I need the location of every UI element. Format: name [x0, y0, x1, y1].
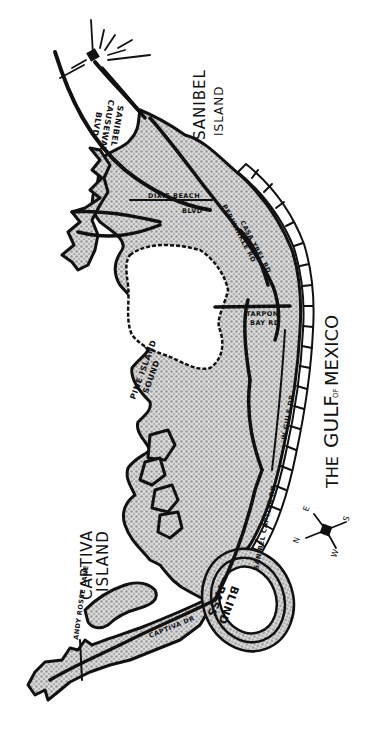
- label-dixie-blvd: BLVD: [182, 207, 203, 215]
- island-map: SANIBEL ISLAND SANIBEL CAUSEWAY BLVD DIX…: [0, 0, 383, 737]
- label-captiva-island: ISLAND: [94, 530, 112, 592]
- compass-w: W: [329, 548, 340, 559]
- label-gulf-mexico: MEXICO: [321, 315, 342, 386]
- label-dixie-beach: DIXIE BEACH: [148, 192, 200, 200]
- label-island: ISLAND: [212, 85, 226, 136]
- captiva-island-landmass: [28, 583, 210, 700]
- tarpon-bay-road-east: [215, 306, 290, 307]
- label-bay-rd: BAY RD: [250, 319, 280, 327]
- compass-e: E: [301, 505, 311, 513]
- compass-n: N: [291, 536, 302, 545]
- label-gulf-gulf: GULF: [319, 395, 343, 448]
- label-tarpon: TARPON: [246, 310, 279, 318]
- label-gulf-of: OF: [332, 388, 340, 398]
- compass-rose: E S N W: [291, 505, 351, 559]
- label-gulf-the: THE: [323, 456, 342, 489]
- inner-bay: [126, 245, 228, 369]
- compass-s: S: [341, 515, 351, 523]
- label-sanibel: SANIBEL: [191, 69, 209, 140]
